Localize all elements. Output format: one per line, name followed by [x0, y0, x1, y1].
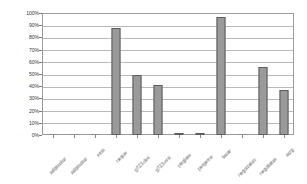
bar: [48, 134, 57, 135]
bar: [195, 133, 204, 135]
bar-slot: [231, 13, 252, 135]
bar: [174, 133, 183, 135]
bar: [132, 75, 141, 135]
x-axis-tick-label: negotiatus: [257, 156, 277, 176]
bar-slot: [168, 13, 189, 135]
y-axis-tick-label: 60%: [5, 59, 39, 65]
bar: [258, 67, 267, 135]
x-axis-tick-label: adipiscitur: [47, 156, 67, 176]
x-axis-tick-label: negociatus: [236, 157, 257, 178]
bar: [237, 134, 246, 135]
bar-slot: [210, 13, 231, 135]
y-axis-tick-label: 20%: [5, 108, 39, 114]
x-axis-tick-label: pergemo: [195, 154, 213, 172]
bar: [279, 90, 288, 135]
y-axis-tick-label: 50%: [5, 71, 39, 77]
y-axis-tick-label: 100%: [5, 10, 39, 16]
bar: [216, 17, 225, 135]
x-axis-tick-label: g723.enc: [153, 154, 172, 173]
x-axis-tick-label: lauar: [220, 148, 232, 160]
bar: [111, 28, 120, 135]
y-axis-tick-label: 80%: [5, 34, 39, 40]
bar-slot: [273, 13, 294, 135]
x-axis-tick-label: pinglate: [175, 152, 191, 168]
y-axis-tick-mark: [39, 135, 42, 136]
bar: [69, 134, 78, 135]
bar-slot: [147, 13, 168, 135]
x-axis-tick-label: eros: [95, 147, 106, 158]
bar: [153, 85, 162, 135]
y-axis-tick-label: 30%: [5, 95, 39, 101]
bar-slot: [252, 13, 273, 135]
bar-slot: [189, 13, 210, 135]
x-axis-tick-label: acrg: [284, 147, 295, 158]
x-axis-category-labels: adipiscituradipisciturerosnequeg723.decg…: [42, 138, 294, 184]
bar-slot: [105, 13, 126, 135]
bar-slot: [84, 13, 105, 135]
bar-slot: [42, 13, 63, 135]
bar-slot: [63, 13, 84, 135]
x-axis-tick-label: neque: [114, 150, 128, 164]
bar: [90, 134, 99, 135]
y-axis-tick-label: 0%: [5, 132, 39, 138]
bars-layer: [42, 13, 294, 135]
y-axis-tick-label: 10%: [5, 120, 39, 126]
y-axis-tick-label: 40%: [5, 83, 39, 89]
y-axis-tick-label: 90%: [5, 22, 39, 28]
bar-chart: 100%90%80%70%60%50%40%30%20%10%0% adipis…: [0, 0, 307, 184]
x-axis-tick-label: g723.dec: [132, 154, 151, 173]
x-axis-tick-label: adipiscitur: [68, 156, 88, 176]
bar-slot: [126, 13, 147, 135]
y-axis-tick-label: 70%: [5, 47, 39, 53]
